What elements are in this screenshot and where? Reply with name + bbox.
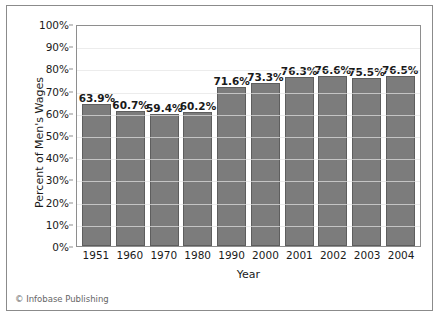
bar-value-label: 71.6%	[213, 76, 249, 87]
y-tick-mark	[69, 202, 73, 203]
x-axis-ticks: 1951196019701980199020002001200220032004	[76, 249, 421, 261]
bar-slot: 76.5%	[383, 26, 417, 246]
x-tick-label: 1990	[215, 249, 249, 261]
x-tick-label: 1951	[79, 249, 113, 261]
x-tick-label: 1980	[181, 249, 215, 261]
gridline-over-bar	[77, 204, 420, 205]
y-tick-mark	[69, 25, 73, 26]
x-tick-label: 2002	[316, 249, 350, 261]
y-tick-label: 0%	[52, 241, 69, 253]
y-axis-title: Percent of Men's Wages	[33, 48, 46, 238]
bar[interactable]: 73.3%	[251, 83, 280, 246]
bar-slot: 73.3%	[249, 26, 283, 246]
bar-series: 63.9%60.7%59.4%60.2%71.6%73.3%76.3%76.6%…	[77, 26, 420, 246]
gridline-over-bar	[77, 70, 420, 71]
bar-value-label: 73.3%	[247, 72, 283, 83]
gridline-over-bar	[77, 226, 420, 227]
credit-line: © Infobase Publishing	[15, 294, 109, 304]
y-tick-mark	[69, 247, 73, 248]
bar[interactable]: 76.3%	[285, 77, 314, 246]
x-tick-label: 2001	[282, 249, 316, 261]
y-tick-mark	[69, 69, 73, 70]
y-tick-mark	[69, 91, 73, 92]
y-axis-ticks: 100%90%80%70%60%50%40%30%20%10%0%	[21, 25, 73, 247]
y-tick-mark	[69, 136, 73, 137]
y-tick-label: 100%	[39, 19, 69, 31]
gridline-over-bar	[77, 115, 420, 116]
bar-slot: 59.4%	[147, 26, 181, 246]
y-tick-label: 20%	[46, 197, 69, 209]
y-tick-label: 80%	[46, 63, 69, 75]
gridline-over-bar	[77, 181, 420, 182]
y-tick-label: 50%	[46, 130, 69, 142]
x-tick-label: 2004	[384, 249, 418, 261]
bar-value-label: 63.9%	[79, 93, 115, 104]
y-tick-label: 10%	[46, 219, 69, 231]
plot-area: 63.9%60.7%59.4%60.2%71.6%73.3%76.3%76.6%…	[76, 25, 421, 247]
x-tick-label: 2003	[350, 249, 384, 261]
bar[interactable]: 76.5%	[386, 76, 415, 246]
bar-slot: 75.5%	[350, 26, 384, 246]
y-tick-mark	[69, 224, 73, 225]
gridline-over-bar	[77, 93, 420, 94]
bar-slot: 60.7%	[114, 26, 148, 246]
bar[interactable]: 63.9%	[82, 104, 111, 246]
bar-slot: 63.9%	[80, 26, 114, 246]
x-tick-label: 1970	[147, 249, 181, 261]
y-tick-label: 90%	[46, 41, 69, 53]
x-axis-title: Year	[76, 268, 421, 281]
gridline-over-bar	[77, 48, 420, 49]
bar-slot: 76.3%	[282, 26, 316, 246]
bar-value-label: 75.5%	[348, 67, 384, 78]
bar-value-label: 60.7%	[112, 100, 148, 111]
bar-value-label: 60.2%	[180, 101, 216, 112]
y-tick-mark	[69, 113, 73, 114]
bar-slot: 60.2%	[181, 26, 215, 246]
bar[interactable]: 76.6%	[318, 76, 347, 246]
bar[interactable]: 71.6%	[217, 87, 246, 246]
x-tick-label: 2000	[249, 249, 283, 261]
x-tick-label: 1960	[113, 249, 147, 261]
y-tick-label: 30%	[46, 174, 69, 186]
y-tick-label: 60%	[46, 108, 69, 120]
y-tick-mark	[69, 180, 73, 181]
bar-slot: 76.6%	[316, 26, 350, 246]
bar[interactable]: 75.5%	[352, 78, 381, 246]
y-tick-mark	[69, 47, 73, 48]
chart-frame: 100%90%80%70%60%50%40%30%20%10%0% Percen…	[6, 5, 433, 311]
y-tick-label: 40%	[46, 152, 69, 164]
y-tick-label: 70%	[46, 86, 69, 98]
gridline-over-bar	[77, 137, 420, 138]
bar-value-label: 59.4%	[146, 103, 182, 114]
bar-slot: 71.6%	[215, 26, 249, 246]
y-tick-mark	[69, 158, 73, 159]
gridline-over-bar	[77, 159, 420, 160]
